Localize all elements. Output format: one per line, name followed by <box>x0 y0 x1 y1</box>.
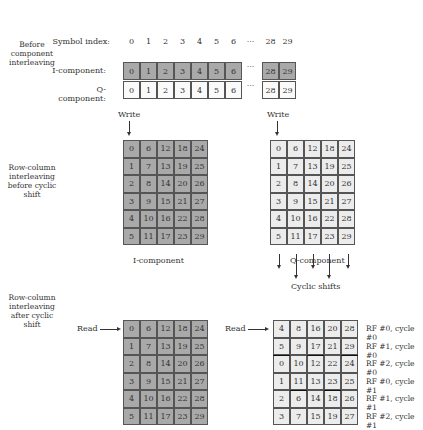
grid-cell: 29 <box>191 228 208 246</box>
grid-cell: 10 <box>140 210 157 228</box>
grid-cell: 22 <box>324 355 341 373</box>
grid-cell: 9 <box>287 193 304 211</box>
grid-cell: 0 <box>273 355 290 373</box>
grid-cell: 15 <box>157 193 174 211</box>
grid-cell: 12 <box>157 140 174 158</box>
component-cell: 3 <box>174 62 191 80</box>
symbol-index: 2 <box>157 37 174 46</box>
grid-cell: 19 <box>174 158 191 176</box>
grid-cell: 23 <box>321 228 338 246</box>
component-cell: ··· <box>242 81 259 90</box>
grid-cell: 24 <box>191 140 208 158</box>
grid-cell: 19 <box>174 338 191 356</box>
grid-cell: 9 <box>140 193 157 211</box>
grid-cell: 22 <box>321 210 338 228</box>
write-label-q: Write <box>267 110 289 119</box>
grid-cell: 13 <box>157 338 174 356</box>
shift-arrow-icon <box>329 254 330 276</box>
grid-cell: 2 <box>123 355 140 373</box>
grid-cell: 23 <box>324 373 341 391</box>
grid-cell: 10 <box>290 355 307 373</box>
rf-cycle-label: RF #1, cycle #0 <box>366 342 423 360</box>
grid-cell: 24 <box>341 355 358 373</box>
grid-cell: 6 <box>140 140 157 158</box>
grid-cell: 26 <box>191 355 208 373</box>
grid-cell: 25 <box>341 373 358 391</box>
grid-cell: 20 <box>174 355 191 373</box>
grid-cell: 27 <box>191 373 208 391</box>
grid-cell: 2 <box>273 390 290 408</box>
shift-arrow-icon <box>313 254 314 266</box>
rf-cycle-label: RF #0, cycle #0 <box>366 324 423 342</box>
grid-cell: 27 <box>338 193 355 211</box>
shift-boundary <box>324 390 341 391</box>
grid-cell: 28 <box>338 210 355 228</box>
grid-cell: 15 <box>157 373 174 391</box>
component-cell: 2 <box>157 62 174 80</box>
grid-cell: 4 <box>273 320 290 338</box>
grid-cell: 0 <box>123 320 140 338</box>
component-cell: 4 <box>191 62 208 80</box>
grid-cell: 23 <box>174 228 191 246</box>
grid-cell: 14 <box>157 175 174 193</box>
grid-cell: 25 <box>191 338 208 356</box>
grid-cell: 18 <box>174 140 191 158</box>
grid-cell: 3 <box>123 193 140 211</box>
grid-cell: 15 <box>304 193 321 211</box>
grid-cell: 8 <box>140 175 157 193</box>
i-component-label: I-component: <box>50 66 106 75</box>
grid-cell: 26 <box>191 175 208 193</box>
component-cell: 1 <box>140 62 157 80</box>
section-label-before-shift: Row-column interleaving before cyclic sh… <box>2 163 62 199</box>
grid-cell: 2 <box>270 175 287 193</box>
read-arrow-q-icon <box>248 329 266 330</box>
grid-cell: 27 <box>191 193 208 211</box>
grid-cell: 17 <box>307 338 324 356</box>
grid-cell: 21 <box>174 193 191 211</box>
symbol-index: 29 <box>279 37 296 46</box>
component-cell: 1 <box>140 81 157 99</box>
grid-cell: 3 <box>273 408 290 426</box>
grid-cell: 29 <box>191 408 208 426</box>
grid-cell: 1 <box>270 158 287 176</box>
grid-cell: 29 <box>338 228 355 246</box>
write-arrow-q-icon <box>277 121 278 133</box>
grid-cell: 4 <box>123 390 140 408</box>
component-cell: 5 <box>208 81 225 99</box>
grid-cell: 4 <box>270 210 287 228</box>
grid-cell: 20 <box>321 175 338 193</box>
shift-boundary <box>307 355 324 356</box>
grid-cell: 24 <box>191 320 208 338</box>
component-cell: 29 <box>279 81 296 99</box>
grid-cell: 16 <box>304 210 321 228</box>
grid-cell: 16 <box>157 210 174 228</box>
grid-cell: 1 <box>123 158 140 176</box>
grid-cell: 18 <box>321 140 338 158</box>
grid-cell: 0 <box>270 140 287 158</box>
grid-cell: 10 <box>140 390 157 408</box>
grid-cell: 8 <box>140 355 157 373</box>
grid-cell: 14 <box>307 390 324 408</box>
grid-cell: 5 <box>123 408 140 426</box>
symbol-index: 5 <box>208 37 225 46</box>
grid-cell: 4 <box>123 210 140 228</box>
grid-cell: 8 <box>290 320 307 338</box>
component-cell: 3 <box>174 81 191 99</box>
symbol-index: 0 <box>123 37 140 46</box>
grid-cell: 21 <box>321 193 338 211</box>
grid-cell: 28 <box>191 210 208 228</box>
grid-cell: 15 <box>307 408 324 426</box>
q-grid-caption: Q-component <box>290 256 345 265</box>
grid-cell: 25 <box>338 158 355 176</box>
component-cell: 5 <box>208 62 225 80</box>
grid-cell: 20 <box>174 175 191 193</box>
grid-cell: 3 <box>123 373 140 391</box>
grid-cell: 7 <box>290 408 307 426</box>
component-cell: 2 <box>157 81 174 99</box>
grid-cell: 9 <box>140 373 157 391</box>
symbol-index: 1 <box>140 37 157 46</box>
grid-cell: 13 <box>304 158 321 176</box>
i-grid-caption: I-component <box>133 256 184 265</box>
grid-cell: 16 <box>307 320 324 338</box>
grid-cell: 3 <box>270 193 287 211</box>
